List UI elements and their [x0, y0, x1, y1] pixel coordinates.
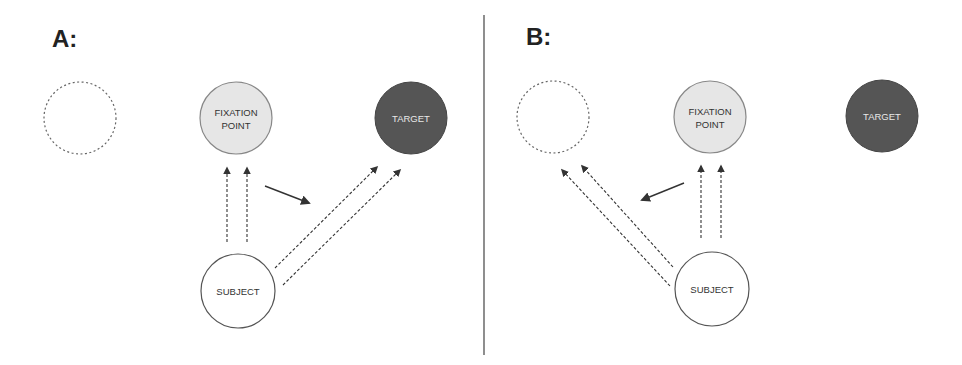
panel-b-fixation-point: FIXATION POINT	[674, 81, 746, 153]
panel-a-empty-location	[44, 82, 116, 154]
panel-b-target: TARGET	[846, 80, 918, 152]
panel-a: A: FIXATION POINT TARGET SUBJECT	[44, 25, 447, 328]
panel-b-subject-label: SUBJECT	[690, 284, 733, 295]
panel-a-subject-label: SUBJECT	[216, 286, 259, 297]
panel-a-target-label: TARGET	[392, 113, 430, 124]
panel-b-fixation-line2: POINT	[695, 119, 724, 130]
panel-b-gaze-to-location-upper	[582, 166, 673, 267]
panel-a-shift-arrow	[265, 186, 309, 203]
panel-b-shift-arrow	[642, 183, 684, 200]
panel-b-fixation-line1: FIXATION	[688, 106, 731, 117]
panel-b-empty-location	[517, 81, 589, 153]
panel-a-subject: SUBJECT	[201, 254, 275, 328]
panel-b: B: FIXATION POINT TARGET SUBJECT	[517, 23, 918, 326]
panel-a-fixation-line2: POINT	[221, 120, 250, 131]
panel-b-label: B:	[526, 23, 551, 50]
panel-a-gaze-to-target-upper	[275, 167, 377, 268]
panel-a-label: A:	[52, 25, 77, 52]
panel-a-fixation-point: FIXATION POINT	[200, 82, 272, 154]
panel-a-gaze-to-target-lower	[283, 170, 400, 285]
diagram-canvas: A: FIXATION POINT TARGET SUBJECT B:	[0, 0, 962, 365]
panel-a-target: TARGET	[375, 82, 447, 154]
panel-b-subject: SUBJECT	[675, 252, 749, 326]
panel-a-fixation-line1: FIXATION	[214, 107, 257, 118]
panel-b-target-label: TARGET	[863, 111, 901, 122]
panel-b-gaze-to-location-lower	[562, 170, 670, 286]
